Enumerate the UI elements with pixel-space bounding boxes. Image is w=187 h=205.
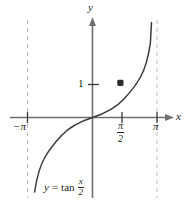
equation-operator: =	[52, 181, 58, 193]
equation-arg-numerator: x	[78, 177, 85, 186]
x-axis-label: x	[176, 111, 181, 122]
y-tick-label-one: 1	[78, 78, 84, 89]
x-tick-label-pi: π	[153, 121, 159, 132]
equation-argument-fraction: x 2	[78, 177, 85, 198]
x-tick-label-neg-pi: −π	[13, 121, 26, 132]
marked-point-square	[117, 80, 123, 86]
equation-annotation: y = tan x 2	[44, 177, 84, 198]
equation-arg-denominator: 2	[78, 188, 85, 197]
equation-function-name: tan	[61, 181, 74, 193]
pi-over-2-denominator: 2	[117, 134, 124, 145]
x-axis-arrowhead	[165, 114, 174, 121]
x-tick-label-pi-over-2: π 2	[117, 121, 124, 144]
y-axis-label: y	[88, 2, 93, 13]
graph-canvas	[0, 0, 187, 205]
equation-lhs: y	[44, 181, 49, 193]
y-axis-arrowhead	[89, 17, 96, 26]
pi-over-2-numerator: π	[117, 121, 124, 132]
tangent-graph-figure: y x 1 −π π 2 π y = tan x 2	[0, 0, 187, 205]
